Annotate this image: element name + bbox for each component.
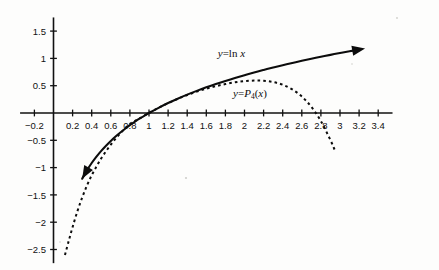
y-tick-label: 0.5 [33, 80, 46, 91]
data-series-layer [65, 46, 365, 255]
ln-curve-label: y=ln x [217, 47, 245, 59]
x-tick-label: 2.6 [295, 120, 308, 131]
y-tick-label: −1.5 [27, 190, 46, 201]
x-tick-label: 3.2 [352, 120, 365, 131]
y-tick-label: −2.5 [27, 244, 46, 255]
y-tick-label: 1.5 [33, 26, 46, 37]
arrow-head-ln-left [82, 165, 93, 179]
x-tick-label: 0.6 [104, 120, 117, 131]
x-tick-label: 2.2 [257, 120, 270, 131]
x-tick-label: −0.2 [25, 120, 44, 131]
taylor-curve-label: y=P4(x) [232, 87, 267, 102]
plot-svg: 0.20.40.60.811.21.41.61.822.22.42.62.833… [0, 0, 439, 270]
x-axis-tick-labels: 0.20.40.60.811.21.41.61.822.22.42.62.833… [25, 120, 385, 131]
y-axis-tick-labels: 1.510.5−0.5−1−1.5−2−2.5 [27, 26, 46, 255]
y-tick-label: −0.5 [27, 135, 46, 146]
curve-taylor-p4 [65, 81, 335, 255]
y-tick-label: 1 [41, 53, 46, 64]
x-tick-label: 0.2 [66, 120, 79, 131]
arrow-head-ln-right [351, 46, 365, 56]
y-tick-label: −1 [35, 162, 46, 173]
x-tick-label: 1.2 [161, 120, 174, 131]
x-tick-label: 2.4 [276, 120, 289, 131]
x-tick-label: 1.8 [219, 120, 232, 131]
x-tick-label: 3 [337, 120, 342, 131]
curve-natural-log [82, 50, 359, 179]
x-tick-label: 1 [146, 120, 151, 131]
x-tick-label: 1.4 [181, 120, 194, 131]
x-tick-label: 2.8 [314, 120, 327, 131]
x-tick-label: 1.6 [200, 120, 213, 131]
curve-annotations: y=ln x y=P4(x) [217, 47, 267, 101]
x-tick-label: 3.4 [372, 120, 385, 131]
x-tick-label: 0.4 [85, 120, 98, 131]
x-tick-label: 2 [242, 120, 247, 131]
figure-canvas: 0.20.40.60.811.21.41.61.822.22.42.62.833… [0, 0, 439, 270]
y-tick-label: −2 [35, 217, 46, 228]
